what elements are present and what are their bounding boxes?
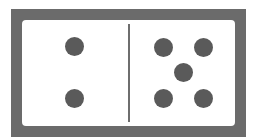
domino-divider [128,24,130,122]
left-pip-icon [65,89,84,108]
left-pip-icon [65,37,84,56]
domino-face [22,20,235,126]
right-pip-icon [174,63,193,82]
right-pip-icon [194,38,213,57]
domino-tile [11,9,246,137]
right-pip-icon [154,38,173,57]
right-pip-icon [154,89,173,108]
right-pip-icon [194,89,213,108]
